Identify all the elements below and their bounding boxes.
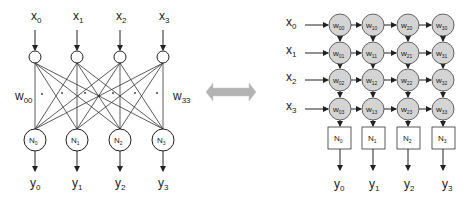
- cell-w12: w12: [362, 69, 384, 91]
- array-output-arrows: [340, 149, 443, 170]
- horizontal-data-arrows: [305, 25, 431, 109]
- array-input-label-x3: x3: [286, 99, 297, 115]
- input-arrows: [35, 30, 163, 50]
- cell-w22: w22: [397, 69, 419, 91]
- cell-w21: w21: [397, 42, 419, 64]
- array-neuron-boxes: N0 N1 N2 N3: [328, 127, 455, 149]
- cell-w23: w23: [397, 98, 419, 120]
- output-label-y2: y2: [115, 176, 126, 192]
- cell-w02: w02: [329, 69, 351, 91]
- cell-w32: w32: [432, 69, 454, 91]
- array-output-label-y1: y1: [369, 177, 380, 193]
- output-arrows: [35, 151, 163, 171]
- cell-w03: w03: [329, 98, 351, 120]
- cell-w01: w01: [329, 42, 351, 64]
- array-output-label-y3: y3: [442, 177, 453, 193]
- input-node-2: [114, 51, 126, 63]
- input-label-x1: x1: [73, 9, 84, 25]
- processing-cells: w00 w10 w20 w30 w01 w11 w21 w31 w02 w12 …: [329, 14, 454, 120]
- weight-label-w00: w00: [14, 89, 33, 105]
- input-node-1: [71, 51, 83, 63]
- array-input-label-x1: x1: [286, 43, 297, 59]
- double-headed-arrow-icon: [206, 83, 256, 101]
- cell-w00: w00: [329, 14, 351, 36]
- output-label-y0: y0: [30, 176, 41, 192]
- neuron-nodes: N0 N1 N2 N3: [24, 129, 174, 151]
- input-labels: x0 x1 x2 x3: [31, 9, 170, 25]
- array-output-label-y2: y2: [404, 177, 415, 193]
- array-output-label-y0: y0: [334, 177, 345, 193]
- fully-connected-network: x0 x1 x2 x3: [14, 9, 191, 192]
- weight-label-w33: w33: [172, 89, 191, 105]
- input-node-0: [29, 51, 41, 63]
- output-label-y1: y1: [72, 176, 83, 192]
- input-label-x2: x2: [116, 9, 127, 25]
- vertical-data-arrows: [340, 36, 443, 126]
- cell-w11: w11: [362, 42, 384, 64]
- input-label-x3: x3: [159, 9, 170, 25]
- array-output-labels: y0 y1 y2 y3: [334, 177, 453, 193]
- diagram-canvas: x0 x1 x2 x3: [0, 0, 472, 205]
- cell-w10: w10: [362, 14, 384, 36]
- cell-w13: w13: [362, 98, 384, 120]
- cell-w33: w33: [432, 98, 454, 120]
- input-node-3: [157, 51, 169, 63]
- array-input-labels: x0 x1 x2 x3: [286, 15, 297, 115]
- cell-w30: w30: [432, 14, 454, 36]
- systolic-array: x0 x1 x2 x3: [286, 14, 455, 193]
- cell-w20: w20: [397, 14, 419, 36]
- output-labels: y0 y1 y2 y3: [30, 176, 169, 192]
- array-input-label-x2: x2: [286, 70, 297, 86]
- output-label-y3: y3: [158, 176, 169, 192]
- input-label-x0: x0: [31, 9, 42, 25]
- input-nodes: [29, 51, 169, 63]
- cell-w31: w31: [432, 42, 454, 64]
- array-input-label-x0: x0: [286, 15, 297, 31]
